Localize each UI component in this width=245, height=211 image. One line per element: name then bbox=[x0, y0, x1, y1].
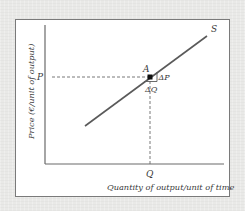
point-a-marker bbox=[148, 75, 153, 80]
quantity-label-q: Q bbox=[146, 169, 154, 179]
y-axis-label: Price (€/unit of output) bbox=[26, 44, 36, 140]
delta-q-label: ΔQ bbox=[144, 85, 158, 94]
x-axis-label: Quantity of output/unit of time bbox=[107, 182, 234, 192]
point-label-a: A bbox=[142, 64, 150, 74]
price-label-p: P bbox=[36, 72, 44, 82]
curve-label-s: S bbox=[211, 24, 217, 34]
supply-curve-line bbox=[85, 36, 207, 126]
delta-p-label: ΔP bbox=[158, 73, 171, 82]
supply-diagram: S A P ΔP ΔQ Q Quantity of output/unit of… bbox=[0, 0, 245, 211]
